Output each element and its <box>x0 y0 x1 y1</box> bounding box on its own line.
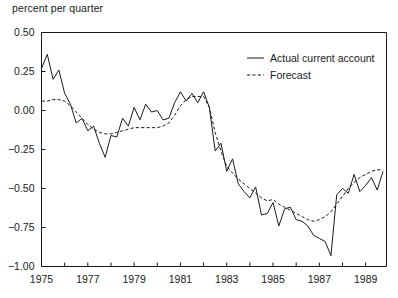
series-line-forecast <box>42 96 384 221</box>
y-tick-labels: 0.500.250.00−0.25−0.50−0.75−1.00 <box>8 26 35 272</box>
chart-figure: percent per quarter 0.500.250.00−0.25−0.… <box>0 0 398 298</box>
x-tick-label: 1989 <box>354 273 378 285</box>
x-tick-label: 1977 <box>76 273 100 285</box>
x-tick-label: 1987 <box>308 273 332 285</box>
x-tick-label: 1981 <box>169 273 193 285</box>
x-tick-label: 1979 <box>122 273 146 285</box>
legend-label-forecast: Forecast <box>270 69 311 81</box>
y-tick-label: 0.50 <box>14 26 35 38</box>
x-tick-label: 1983 <box>215 273 239 285</box>
y-tick-label: 0.25 <box>14 65 35 77</box>
y-tick-label: −0.50 <box>8 182 35 194</box>
y-tick-label: −0.75 <box>8 221 35 233</box>
x-tick-marks <box>42 263 366 267</box>
plot-frame <box>42 33 387 267</box>
legend-label-actual: Actual current account <box>270 52 375 64</box>
x-tick-label: 1985 <box>261 273 285 285</box>
y-tick-label: −0.25 <box>8 143 35 155</box>
x-tick-labels: 19751977197919811983198519871989 <box>30 273 378 285</box>
chart-series-group <box>42 54 384 255</box>
x-tick-label: 1975 <box>30 273 54 285</box>
chart-axes <box>42 33 387 267</box>
series-line-actual-current-account <box>42 54 384 255</box>
y-tick-label: −1.00 <box>8 260 35 272</box>
line-chart-plot: 0.500.250.00−0.25−0.50−0.75−1.00 1975197… <box>0 0 398 298</box>
chart-legend: Actual current account Forecast <box>247 52 375 81</box>
y-tick-label: 0.00 <box>14 104 35 116</box>
